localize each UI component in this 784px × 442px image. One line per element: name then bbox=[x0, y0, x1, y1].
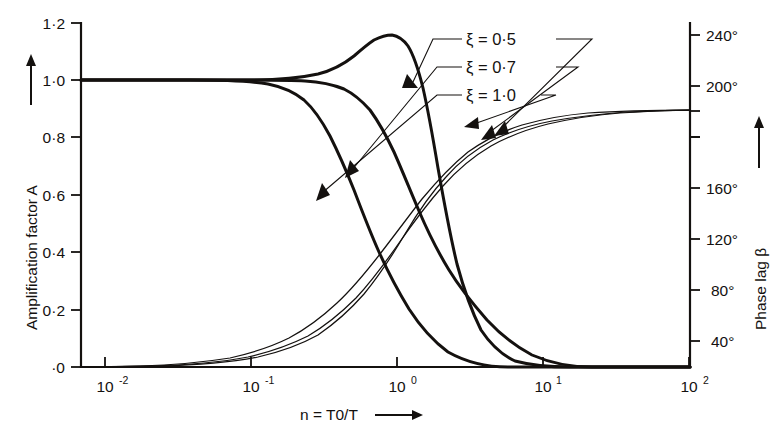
phase-curve-xi-1-0 bbox=[81, 110, 690, 367]
left-tick-label-0-2: 0·2 bbox=[43, 302, 65, 319]
left-tick-labels: 1·2 1·0 0·8 0·6 0·4 0·2 ·0 bbox=[43, 15, 66, 376]
leader-arrowhead-xi-0-7-phase bbox=[481, 125, 496, 140]
right-axis-title-group: Phase lag β bbox=[752, 116, 769, 330]
right-tick-label-80: 80° bbox=[711, 282, 734, 299]
right-tick-label-240: 240° bbox=[706, 27, 738, 44]
left-tick-label-0: ·0 bbox=[51, 359, 65, 376]
right-tick-label-40: 40° bbox=[711, 333, 734, 350]
amplification-curves bbox=[81, 35, 690, 367]
x-tick-mantissa: 10 bbox=[96, 378, 114, 395]
x-tick-exponent: 0 bbox=[411, 374, 417, 386]
x-axis-arrowhead-icon bbox=[412, 410, 423, 420]
x-tick-mantissa: 10 bbox=[534, 378, 552, 395]
x-tick-labels: 10 -2 10 -1 10 0 10 1 10 2 bbox=[96, 374, 709, 395]
figure-container: 1·2 1·0 0·8 0·6 0·4 0·2 ·0 240° 200° 160… bbox=[0, 0, 784, 442]
x-tick-label-1e2: 10 2 bbox=[680, 374, 709, 395]
left-axis-title-group: Amplification factor A bbox=[23, 54, 40, 330]
x-tick-mantissa: 10 bbox=[680, 378, 698, 395]
leader-arrowhead-xi-1-0-amp bbox=[316, 183, 330, 201]
leader-arrowhead-xi-1-0-phase bbox=[464, 117, 479, 129]
left-tick-label-1-0: 1·0 bbox=[43, 72, 66, 89]
amplification-phase-chart: 1·2 1·0 0·8 0·6 0·4 0·2 ·0 240° 200° 160… bbox=[0, 0, 784, 442]
legend-label-xi-1-0: ξ = 1·0 bbox=[466, 86, 516, 105]
x-tick-mantissa: 10 bbox=[388, 378, 406, 395]
x-tick-label-1e-1: 10 -1 bbox=[242, 374, 274, 395]
legend-label-xi-0-5: ξ = 0·5 bbox=[466, 30, 516, 49]
left-tick-label-0-6: 0·6 bbox=[43, 187, 65, 204]
right-tick-labels: 240° 200° 160° 120° 80° 40° bbox=[706, 27, 738, 350]
x-tick-label-1e0: 10 0 bbox=[388, 374, 417, 395]
left-axis-ticks bbox=[71, 23, 81, 367]
left-tick-label-1-2: 1·2 bbox=[43, 15, 65, 32]
left-tick-label-0-4: 0·4 bbox=[43, 244, 66, 261]
phase-curve-xi-0-5 bbox=[81, 110, 690, 367]
x-axis-title-group: n = T0/T bbox=[300, 406, 423, 423]
left-tick-label-0-8: 0·8 bbox=[43, 129, 65, 146]
x-tick-exponent: 2 bbox=[703, 374, 709, 386]
amplification-curve-xi-0-7 bbox=[81, 80, 690, 367]
x-tick-label-1e1: 10 1 bbox=[534, 374, 562, 395]
right-axis-title: Phase lag β bbox=[752, 248, 769, 330]
legend-label-xi-0-7: ξ = 0·7 bbox=[466, 58, 516, 77]
amplification-curve-xi-0-5 bbox=[81, 35, 690, 367]
phase-curve-xi-0-7 bbox=[81, 110, 690, 367]
right-axis-ticks bbox=[690, 35, 700, 341]
x-tick-exponent: -1 bbox=[265, 374, 274, 386]
legend: ξ = 0·5 ξ = 0·7 ξ = 1·0 bbox=[316, 30, 592, 201]
x-tick-mantissa: 10 bbox=[242, 378, 260, 395]
phase-curves bbox=[81, 110, 690, 367]
right-tick-label-120: 120° bbox=[706, 231, 738, 248]
x-tick-label-1e-2: 10 -2 bbox=[96, 374, 128, 395]
left-axis-arrowhead-icon bbox=[26, 54, 36, 66]
x-tick-exponent: 1 bbox=[556, 374, 562, 386]
x-tick-exponent: -2 bbox=[119, 374, 128, 386]
right-tick-label-160: 160° bbox=[706, 180, 738, 197]
axes-frame bbox=[81, 23, 690, 367]
x-axis-title: n = T0/T bbox=[300, 406, 358, 423]
right-tick-label-200: 200° bbox=[706, 78, 738, 95]
right-axis-arrowhead-icon bbox=[754, 116, 764, 128]
amplification-curve-xi-1-0 bbox=[81, 80, 690, 367]
left-axis-title: Amplification factor A bbox=[23, 185, 40, 330]
